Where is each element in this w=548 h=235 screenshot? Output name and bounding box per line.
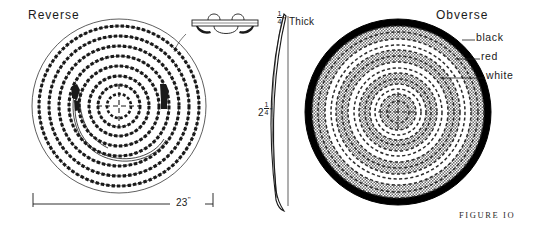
- reverse-diagram: [32, 19, 213, 207]
- reverse-label: Reverse: [28, 8, 80, 22]
- thickness-word: Thick: [289, 16, 314, 27]
- diameter-value: 23: [176, 197, 188, 208]
- obverse-label: Obverse: [436, 8, 488, 22]
- strap-tail-right: [239, 26, 254, 34]
- height-fraction: 1 4: [264, 101, 269, 116]
- callout-black-label: black: [476, 31, 504, 43]
- profile-curve: [271, 14, 286, 211]
- edge-section-detail: [174, 14, 258, 52]
- obverse-diagram: [305, 19, 491, 205]
- illustration-canvas: [0, 0, 548, 235]
- strap-tail-left: [196, 26, 211, 34]
- figure-caption: FIGURE IO: [459, 210, 515, 220]
- thickness-unit: ": [283, 15, 286, 24]
- thickness-dimension-label: 1 4 " Thick: [277, 10, 314, 27]
- thickness-fraction: 1 4: [277, 10, 282, 25]
- diameter-unit: ": [188, 195, 191, 204]
- reverse-ring: [107, 94, 131, 118]
- reverse-grip-right: [160, 84, 169, 109]
- strap-loop-left: [208, 14, 220, 20]
- strap-loop-bottom: [214, 26, 238, 34]
- side-profile-view: [271, 14, 288, 211]
- callout-red-label: red: [481, 50, 498, 62]
- callout-white-label: white: [486, 69, 514, 81]
- diameter-dimension-label: 23": [176, 195, 191, 208]
- height-dimension-label: 2 1 4 ": [258, 101, 273, 118]
- figure-plate: Reverse Obverse black red white 1 4 " Th…: [0, 0, 548, 235]
- height-unit: ": [270, 106, 273, 115]
- strap-loop-right: [232, 14, 244, 20]
